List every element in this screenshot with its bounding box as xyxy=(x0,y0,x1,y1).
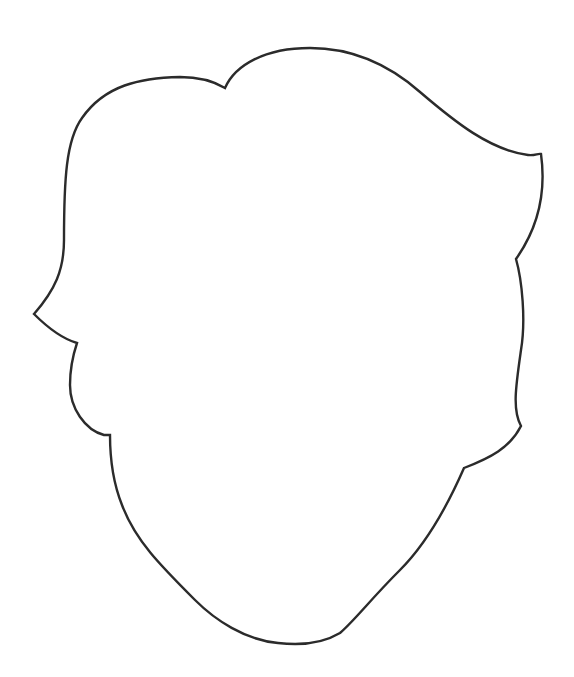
head-outline-drawing xyxy=(0,0,574,677)
drawing-canvas xyxy=(0,0,574,677)
head-outline-icon xyxy=(34,48,543,644)
